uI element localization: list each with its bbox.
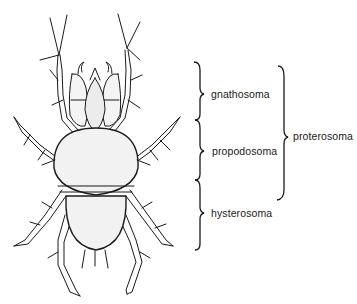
bracket-hysterosoma [195, 180, 204, 250]
bracket-proterosoma [277, 66, 288, 200]
bracket-propodosoma [195, 120, 204, 180]
gnathosoma-drawing [69, 62, 120, 130]
leg-3-right [126, 190, 173, 246]
leg-4-right [119, 215, 150, 294]
bracket-gnathosoma [194, 62, 204, 120]
mite-illustration [0, 0, 357, 304]
label-hysterosoma: hysterosoma [211, 207, 272, 219]
label-proterosoma: proterosoma [293, 130, 353, 142]
label-gnathosoma: gnathosoma [211, 88, 270, 100]
label-propodosoma: propodosoma [212, 145, 277, 157]
